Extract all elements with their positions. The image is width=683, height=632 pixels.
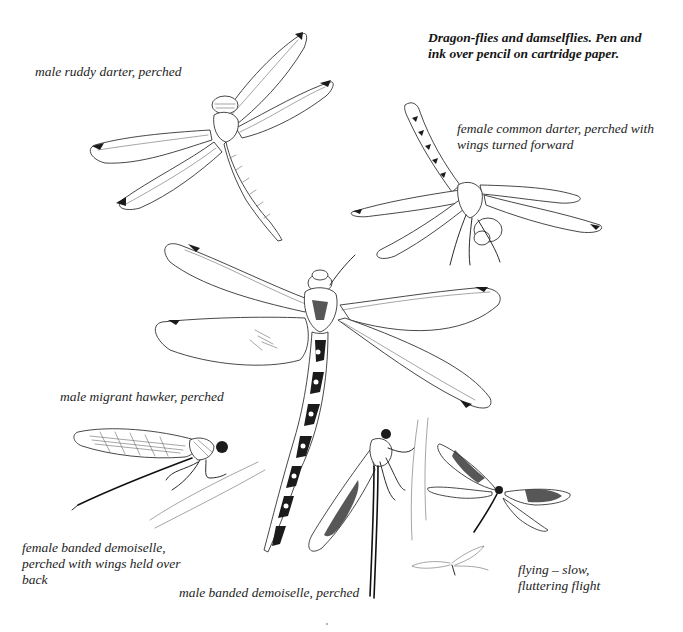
caption-female-common-darter: female common darter, perched with wings…	[457, 121, 654, 153]
caption-line: back	[22, 572, 180, 588]
caption-male-banded-demoiselle: male banded demoiselle, perched	[179, 585, 359, 601]
caption-line: fluttering flight	[518, 578, 600, 594]
drawings-canvas	[0, 0, 683, 632]
female-banded-demoiselle-drawing	[72, 429, 265, 528]
page-mark	[326, 623, 328, 625]
caption-line: male migrant hawker, perched	[60, 389, 224, 405]
caption-line: male ruddy darter, perched	[35, 64, 181, 80]
title-line-2: ink over pencil on cartridge paper.	[428, 46, 641, 62]
caption-line: female banded demoiselle,	[22, 540, 180, 556]
caption-line: perched with wings held over	[22, 556, 180, 572]
illustration-plate: Dragon-flies and damselflies. Pen and in…	[0, 0, 683, 632]
caption-line: wings turned forward	[457, 137, 654, 153]
caption-flying: flying – slow, fluttering flight	[518, 562, 600, 594]
caption-line: female common darter, perched with	[457, 121, 654, 137]
small-flying-demoiselle-drawing	[412, 546, 488, 575]
caption-female-banded-demoiselle: female banded demoiselle, perched with w…	[22, 540, 180, 588]
caption-male-ruddy-darter: male ruddy darter, perched	[35, 64, 181, 80]
caption-line: male banded demoiselle, perched	[179, 585, 359, 601]
title-line-1: Dragon-flies and damselflies. Pen and	[428, 30, 641, 46]
caption-line: flying – slow,	[518, 562, 600, 578]
flying-demoiselle-drawing	[428, 444, 571, 532]
caption-male-migrant-hawker: male migrant hawker, perched	[60, 389, 224, 405]
male-banded-demoiselle-drawing	[309, 418, 428, 598]
plate-title: Dragon-flies and damselflies. Pen and in…	[428, 30, 641, 62]
